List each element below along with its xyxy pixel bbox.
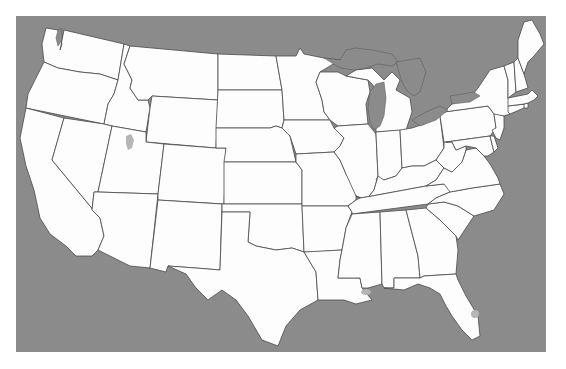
state-MT[interactable]: [124, 46, 218, 100]
state-CO[interactable]: [158, 144, 226, 204]
lake-pontchartrain: [361, 289, 371, 295]
state-NE[interactable]: [216, 126, 296, 162]
lake-okeechobee: [471, 310, 479, 318]
map-svg: [0, 0, 566, 369]
state-IN[interactable]: [376, 130, 402, 180]
state-KS[interactable]: [224, 162, 302, 204]
state-NM[interactable]: [150, 200, 222, 272]
us-states-map: [0, 0, 566, 369]
state-ND[interactable]: [218, 54, 282, 90]
state-WY[interactable]: [146, 96, 218, 148]
state-SD[interactable]: [216, 90, 284, 128]
